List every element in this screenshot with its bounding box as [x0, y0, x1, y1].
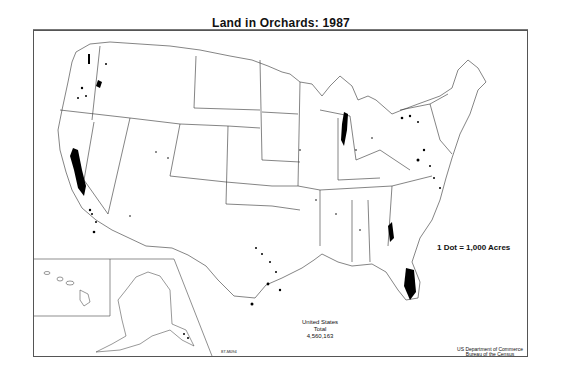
total-label-line1: United States	[290, 319, 350, 326]
hawaii-outline	[44, 272, 90, 307]
map-id: 87-M094	[221, 349, 237, 354]
orchard-dots	[70, 54, 441, 339]
us-total: United States Total 4,560,163	[290, 319, 350, 340]
source-line2: Bureau of the Census	[450, 352, 530, 357]
dot-legend: 1 Dot = 1,000 Acres	[437, 243, 510, 252]
alaska-outline	[96, 272, 194, 352]
total-label-line2: Total	[290, 326, 350, 333]
state-boundaries	[58, 42, 486, 300]
source-credit: US Department of Commerce Bureau of the …	[450, 347, 530, 357]
total-value: 4,560,163	[290, 333, 350, 340]
us-dot-map	[0, 0, 562, 380]
